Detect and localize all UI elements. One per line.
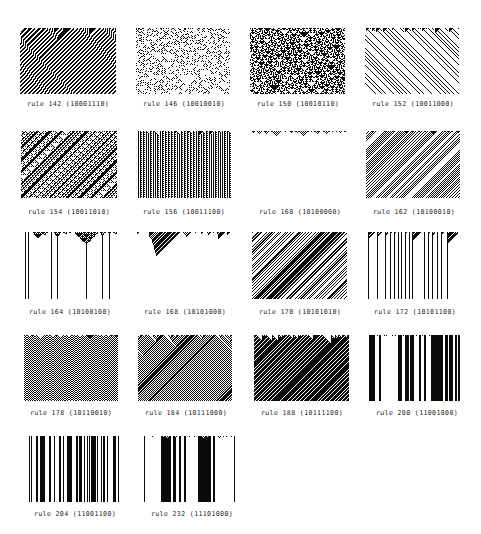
- panel-caption: rule 150 (10010110): [238, 100, 358, 108]
- panel-caption: rule 154 (10011010): [9, 208, 129, 216]
- pattern-image: [144, 436, 235, 502]
- document-page: { "figure": { "panels": [ {"rule": 142, …: [0, 0, 481, 534]
- pattern-image: [136, 28, 230, 94]
- panel-caption: rule 160 (10100000): [240, 208, 360, 216]
- panel-caption: rule 172 (10101100): [355, 308, 475, 316]
- pattern-image: [367, 232, 461, 299]
- pattern-image: [20, 28, 116, 94]
- pattern-image: [24, 335, 118, 401]
- pattern-image: [366, 131, 460, 198]
- pattern-image: [137, 232, 232, 299]
- pattern-image: [21, 131, 117, 198]
- panel-caption: rule 200 (11001000): [357, 409, 477, 417]
- pattern-image: [138, 335, 232, 401]
- panel-caption: rule 188 (10111100): [242, 409, 362, 417]
- pattern-image: [365, 28, 459, 94]
- pattern-image: [250, 28, 345, 94]
- panel-caption: rule 142 (10001110): [8, 100, 128, 108]
- pattern-image: [138, 131, 232, 198]
- pattern-image: [252, 131, 348, 198]
- pattern-image: [27, 436, 120, 502]
- panel-caption: rule 146 (10010010): [124, 100, 244, 108]
- pattern-image: [369, 335, 462, 401]
- pattern-image: [22, 232, 117, 299]
- panel-caption: rule 162 (10100010): [354, 208, 474, 216]
- panel-caption: rule 168 (10101000): [125, 308, 245, 316]
- panel-caption: rule 164 (10100100): [10, 308, 130, 316]
- panel-caption: rule 156 (10011100): [124, 208, 244, 216]
- pattern-image: [252, 232, 347, 299]
- panel-caption: rule 152 (10011000): [353, 100, 473, 108]
- panel-caption: rule 204 (11001100): [15, 510, 135, 518]
- panel-caption: rule 232 (11101000): [132, 510, 252, 518]
- panel-caption: rule 178 (10110010): [11, 409, 131, 417]
- panel-caption: rule 170 (10101010): [240, 308, 360, 316]
- panel-caption: rule 184 (10111000): [126, 409, 246, 417]
- pattern-image: [254, 335, 349, 401]
